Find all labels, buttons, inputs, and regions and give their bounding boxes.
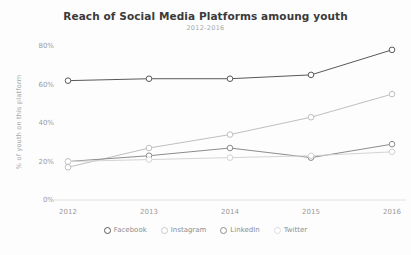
data-point-marker[interactable]	[389, 47, 395, 53]
data-point-marker[interactable]	[227, 76, 233, 82]
data-point-marker[interactable]	[308, 153, 314, 159]
data-point-marker[interactable]	[146, 145, 152, 151]
chart-legend: FacebookInstagramLinkedInTwitter	[0, 226, 411, 234]
y-axis-title: % of youth on this platform	[15, 72, 23, 172]
x-axis-tick-label: 2016	[372, 208, 411, 216]
legend-circle-icon	[220, 227, 227, 234]
legend-label: Instagram	[171, 226, 207, 234]
y-axis-tick-label: 40%	[28, 119, 54, 127]
data-point-marker[interactable]	[308, 114, 314, 120]
data-point-marker[interactable]	[308, 72, 314, 78]
data-point-marker[interactable]	[146, 76, 152, 82]
plot-area: 0%20%40%60%80% 20122013201420152016 % of…	[0, 0, 411, 255]
data-point-marker[interactable]	[227, 132, 233, 138]
legend-circle-icon	[274, 227, 281, 234]
legend-label: Facebook	[114, 226, 147, 234]
x-axis-tick-label: 2014	[210, 208, 250, 216]
legend-item-instagram[interactable]: Instagram	[161, 226, 207, 234]
y-axis-tick-label: 20%	[28, 158, 54, 166]
legend-label: LinkedIn	[230, 226, 259, 234]
data-point-marker[interactable]	[65, 164, 71, 170]
data-point-marker[interactable]	[65, 78, 71, 84]
legend-circle-icon	[104, 227, 111, 234]
data-point-marker[interactable]	[389, 149, 395, 155]
x-axis-tick-label: 2012	[48, 208, 88, 216]
series-facebook	[65, 47, 395, 83]
x-axis-tick-label: 2013	[129, 208, 169, 216]
line-chart-svg	[0, 0, 411, 255]
legend-label: Twitter	[284, 226, 307, 234]
data-point-marker[interactable]	[389, 91, 395, 97]
y-axis-tick-label: 80%	[28, 42, 54, 50]
legend-item-twitter[interactable]: Twitter	[274, 226, 307, 234]
chart-container: Reach of Social Media Platforms amoung y…	[0, 0, 411, 255]
data-point-marker[interactable]	[65, 159, 71, 165]
y-axis-tick-label: 0%	[28, 196, 54, 204]
data-point-marker[interactable]	[227, 155, 233, 161]
legend-circle-icon	[161, 227, 168, 234]
data-point-marker[interactable]	[227, 145, 233, 151]
data-point-marker[interactable]	[146, 157, 152, 163]
x-axis-tick-label: 2015	[291, 208, 331, 216]
legend-item-linkedin[interactable]: LinkedIn	[220, 226, 259, 234]
data-point-marker[interactable]	[389, 141, 395, 147]
legend-item-facebook[interactable]: Facebook	[104, 226, 147, 234]
y-axis-tick-label: 60%	[28, 81, 54, 89]
